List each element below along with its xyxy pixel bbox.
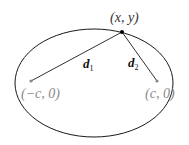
d2-subscript: 2 bbox=[135, 63, 139, 72]
ellipse-diagram: (x, y) d1 d2 (−c, 0) (c, 0) bbox=[0, 0, 189, 145]
point-label: (x, y) bbox=[110, 10, 139, 26]
d1-subscript: 1 bbox=[90, 64, 94, 73]
ellipse-curve bbox=[15, 29, 173, 137]
focus-right-label: (c, 0) bbox=[145, 86, 175, 102]
segment-d1 bbox=[31, 32, 122, 81]
focus-right-dot bbox=[155, 79, 158, 82]
d1-label: d1 bbox=[83, 56, 94, 73]
point-dot bbox=[120, 30, 124, 34]
focus-left-label: (−c, 0) bbox=[21, 86, 60, 102]
focus-left-dot bbox=[29, 79, 32, 82]
d2-label: d2 bbox=[128, 55, 139, 72]
